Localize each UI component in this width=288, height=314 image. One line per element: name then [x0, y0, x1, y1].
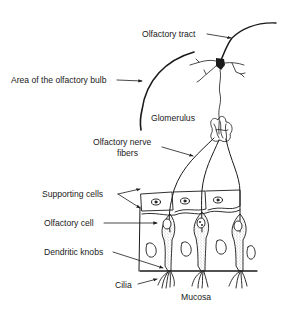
olfactory-diagram: Olfactory tract Area of the olfactory bu…	[0, 0, 288, 314]
supporting-cells	[141, 190, 240, 215]
label-cilia: Cilia	[115, 280, 132, 290]
leader-supporting-cells-1	[118, 189, 140, 194]
label-dendritic-knobs: Dendritic knobs	[44, 247, 103, 257]
olfactory-tract-axon	[221, 23, 276, 60]
label-olfactory-bulb: Area of the olfactory bulb	[11, 75, 107, 85]
label-nerve-fibers-line2: fibers	[117, 148, 138, 158]
cilia	[158, 272, 247, 288]
label-olfactory-tract: Olfactory tract	[142, 29, 196, 39]
label-mucosa: Mucosa	[181, 292, 211, 302]
leader-olfactory-tract	[207, 34, 231, 38]
label-nerve-fibers-line1: Olfactory nerve	[93, 137, 151, 147]
mitral-cell-dendrites	[190, 59, 245, 134]
label-olfactory-cell: Olfactory cell	[44, 218, 94, 228]
olfactory-cells	[162, 212, 246, 271]
label-glomerulus: Glomerulus	[151, 113, 195, 123]
leader-olfactory-bulb	[117, 80, 142, 81]
leader-cilia	[138, 279, 157, 284]
label-supporting-cells: Supporting cells	[42, 189, 103, 199]
leader-supporting-cells-2	[118, 194, 140, 208]
leader-nerve-fibers	[162, 147, 193, 156]
mitral-cell-body	[216, 58, 225, 70]
